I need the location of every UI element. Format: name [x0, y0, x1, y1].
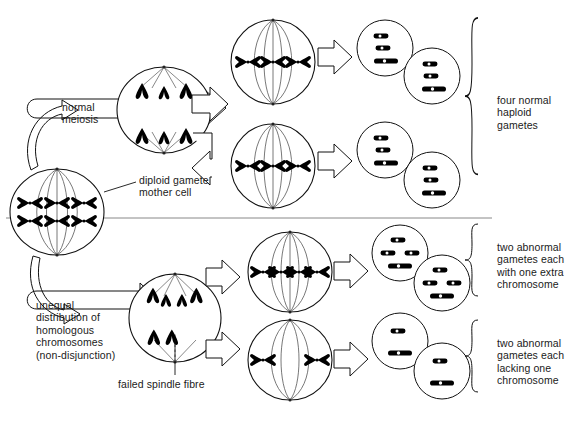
- label-four-normal-haploid-gametes: four normal haploid gametes: [497, 94, 551, 131]
- arrow-to-gametes-normal-upper: [318, 40, 352, 74]
- cell-normal-metaphase-upper: [231, 19, 315, 106]
- gamete-normal-1: [357, 20, 413, 76]
- label-diploid-gamete-mother-cell: diploid gamete mother cell: [139, 174, 209, 199]
- gamete-lacking-2: [414, 343, 470, 399]
- cell-abnormal-metaphase-lower: [248, 319, 332, 402]
- label-two-abnormal-lacking-chromosome: two abnormal gametes each lacking one ch…: [497, 337, 564, 387]
- gamete-extra-2: [414, 255, 470, 311]
- cell-diploid-gamete-mother: [10, 167, 104, 256]
- cell-abnormal-metaphase-upper: [248, 231, 332, 314]
- label-normal-meiosis: normal meiosis: [62, 101, 98, 126]
- arrow-normal-meiosis-tail: [27, 99, 37, 118]
- label-failed-spindle-fibre: failed spindle fibre: [118, 378, 205, 390]
- bracket-four-normal: [465, 18, 478, 175]
- gamete-normal-2: [404, 48, 460, 104]
- label-two-abnormal-extra-chromosome: two abnormal gametes each with one extra…: [497, 241, 564, 291]
- gamete-normal-3: [357, 122, 413, 178]
- gamete-normal-4: [404, 152, 460, 208]
- arrow-to-abnormal-metaphase-upper: [206, 260, 240, 294]
- cell-normal-metaphase-lower: [231, 123, 315, 210]
- meiosis-diagram: normal meiosis diploid gamete mother cel…: [0, 0, 571, 422]
- leader-mother-cell: [104, 182, 136, 192]
- arrow-to-gametes-extra: [334, 254, 368, 288]
- arrow-to-gametes-normal-lower: [318, 144, 352, 178]
- label-non-disjunction: unequal distribution of homologous chrom…: [36, 299, 115, 361]
- arrow-to-gametes-lacking: [334, 342, 368, 376]
